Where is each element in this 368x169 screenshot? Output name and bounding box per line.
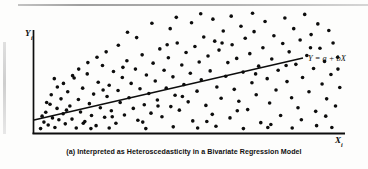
scatter-point bbox=[230, 43, 234, 47]
scatter-point bbox=[171, 75, 175, 79]
scatter-point bbox=[219, 96, 223, 100]
scatter-point bbox=[56, 85, 60, 89]
scatter-point bbox=[190, 21, 194, 25]
scatter-point bbox=[153, 79, 157, 83]
scatter-point bbox=[338, 86, 342, 90]
scatter-point bbox=[186, 100, 190, 104]
scatter-point bbox=[151, 61, 155, 65]
scatter-point bbox=[251, 11, 255, 15]
scatter-point bbox=[296, 106, 300, 110]
scatter-point bbox=[181, 95, 185, 99]
scatter-point bbox=[199, 12, 203, 16]
scatter-point bbox=[178, 108, 182, 112]
scatter-point bbox=[235, 57, 239, 61]
scatter-point bbox=[42, 120, 46, 124]
scatter-point bbox=[39, 127, 43, 131]
scatter-point bbox=[252, 30, 256, 34]
scatter-point bbox=[314, 110, 318, 114]
scatter-point bbox=[142, 103, 146, 107]
scatter-point bbox=[193, 45, 197, 49]
scatter-point bbox=[55, 107, 59, 111]
scatter-point bbox=[301, 76, 305, 80]
scatter-point bbox=[239, 24, 243, 28]
scatter-point bbox=[300, 118, 304, 122]
scatter-point bbox=[74, 126, 78, 130]
scatter-point bbox=[123, 113, 127, 117]
scatter-point bbox=[232, 88, 236, 92]
scatter-point bbox=[189, 71, 193, 75]
scatter-point bbox=[226, 61, 230, 65]
scatter-point bbox=[103, 116, 107, 120]
scatter-point bbox=[229, 14, 233, 18]
scatter-point bbox=[283, 16, 287, 20]
scatter-point bbox=[81, 121, 85, 125]
scatter-point bbox=[59, 97, 63, 101]
scatter-point bbox=[175, 41, 179, 45]
scatter-point bbox=[221, 29, 225, 33]
scatter-point bbox=[96, 80, 100, 84]
scatter-point bbox=[150, 22, 154, 26]
scatter-point bbox=[287, 50, 291, 54]
scatter-point bbox=[330, 126, 334, 130]
figure-container: Y i X i Y = a + bX (a) Interpreted as He… bbox=[0, 0, 368, 169]
scatter-point bbox=[66, 90, 70, 94]
scatter-plot: Y i X i Y = a + bX bbox=[0, 0, 368, 169]
scatter-point bbox=[63, 122, 67, 126]
regression-line bbox=[34, 58, 303, 120]
scatter-point bbox=[259, 121, 263, 125]
scatter-point bbox=[46, 123, 50, 127]
scatter-point bbox=[110, 115, 114, 119]
scatter-point bbox=[94, 124, 98, 128]
scatter-point bbox=[274, 88, 278, 92]
scatter-point bbox=[101, 88, 105, 92]
scatter-point bbox=[158, 47, 162, 51]
figure-caption: (a) Interpreted as Heteroscedasticity in… bbox=[0, 148, 368, 156]
scatter-point bbox=[57, 118, 61, 122]
scatter-point bbox=[248, 52, 252, 56]
scatter-point bbox=[242, 127, 246, 131]
scatter-point bbox=[279, 114, 283, 118]
scatter-point bbox=[325, 97, 329, 101]
scatter-point bbox=[92, 92, 96, 96]
scatter-point bbox=[86, 61, 90, 65]
scatter-point bbox=[171, 125, 175, 129]
scatter-point bbox=[334, 104, 338, 108]
scatter-point bbox=[205, 120, 209, 124]
scatter-point bbox=[284, 64, 288, 68]
scatter-point bbox=[276, 69, 280, 73]
scatter-point bbox=[105, 95, 109, 99]
scatter-point bbox=[114, 121, 118, 125]
scatter-point bbox=[195, 89, 199, 93]
scatter-point bbox=[269, 123, 273, 127]
scatter-point bbox=[160, 115, 164, 119]
scatter-point bbox=[135, 36, 139, 40]
scatter-point bbox=[138, 87, 142, 91]
scatter-point bbox=[104, 50, 108, 54]
scatter-point bbox=[99, 106, 103, 110]
scatter-point bbox=[214, 124, 218, 128]
scatter-point bbox=[136, 118, 140, 122]
scatter-point bbox=[118, 101, 122, 105]
scatter-point bbox=[49, 93, 53, 97]
scatter-point bbox=[336, 67, 340, 71]
scatter-point bbox=[206, 54, 210, 58]
scatter-point bbox=[228, 116, 232, 120]
scatter-point bbox=[324, 114, 328, 118]
scatter-point bbox=[210, 113, 214, 117]
scatter-point bbox=[77, 98, 81, 102]
scatter-point bbox=[88, 102, 92, 106]
scatter-point bbox=[117, 44, 121, 48]
scatter-point bbox=[145, 73, 149, 77]
scatter-point bbox=[217, 48, 221, 52]
scatter-point bbox=[107, 126, 111, 130]
scatter-points bbox=[39, 11, 342, 130]
scatter-point bbox=[126, 30, 130, 34]
scatter-point bbox=[298, 38, 302, 42]
scatter-point bbox=[132, 107, 136, 111]
scatter-point bbox=[331, 41, 335, 45]
scatter-point bbox=[294, 63, 298, 67]
scatter-point bbox=[307, 90, 311, 94]
scatter-point bbox=[290, 126, 294, 130]
scatter-point bbox=[263, 20, 267, 24]
scatter-point bbox=[167, 56, 171, 60]
